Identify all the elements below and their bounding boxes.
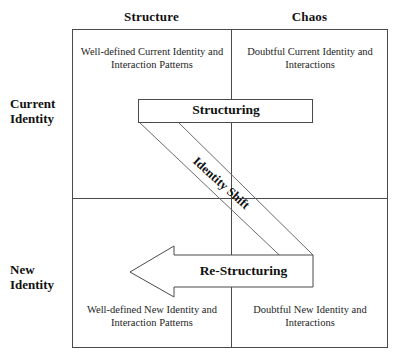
row-label-new-identity: New Identity (10, 262, 70, 292)
column-header-chaos: Chaos (231, 9, 388, 25)
quadrant-text-bottom-right: Doubtful New Identity and Interactions (236, 303, 384, 329)
quadrant-text-top-right: Doubtful Current Identity and Interactio… (236, 45, 384, 71)
quadrant-text-top-left: Well-defined Current Identity and Intera… (78, 45, 226, 71)
identity-shift-diagram: Structure Chaos Current Identity New Ide… (0, 0, 405, 362)
restructuring-label: Re-Structuring (174, 263, 313, 279)
column-header-structure: Structure (72, 9, 231, 25)
quadrant-text-bottom-left: Well-defined New Identity and Interactio… (78, 303, 226, 329)
row-label-current-identity-line1: Current (10, 96, 70, 111)
row-label-current-identity: Current Identity (10, 96, 70, 126)
row-label-current-identity-line2: Identity (10, 111, 70, 126)
structuring-label: Structuring (139, 102, 313, 118)
row-label-new-identity-line1: New (10, 262, 70, 277)
row-label-new-identity-line2: Identity (10, 277, 70, 292)
